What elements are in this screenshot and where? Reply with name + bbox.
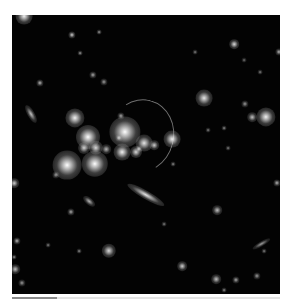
galaxy — [100, 78, 107, 85]
galaxy — [262, 249, 267, 254]
galaxy — [102, 244, 116, 258]
galaxy — [171, 162, 176, 167]
galaxy — [36, 79, 43, 86]
galaxy — [114, 144, 131, 161]
galaxy — [212, 205, 222, 215]
galaxy — [89, 71, 96, 78]
galaxy — [67, 208, 74, 215]
galaxy — [97, 30, 102, 35]
astronomical-image — [12, 15, 280, 294]
galaxy — [222, 126, 227, 131]
galaxy — [82, 194, 97, 208]
galaxy — [162, 222, 167, 227]
galaxy — [222, 288, 227, 293]
galaxy — [275, 48, 280, 55]
galaxy — [193, 50, 198, 55]
galaxy — [256, 107, 275, 126]
galaxy — [258, 70, 263, 75]
galaxy — [211, 274, 221, 284]
galaxy — [13, 237, 20, 244]
galaxy — [46, 243, 51, 248]
galaxy — [273, 179, 280, 186]
galaxy — [82, 151, 108, 177]
galaxy — [12, 255, 16, 260]
galaxy — [16, 15, 33, 24]
galaxy — [253, 272, 260, 279]
galaxy — [77, 249, 82, 254]
galaxy — [196, 90, 213, 107]
galaxy — [206, 128, 211, 133]
galaxy — [65, 108, 84, 127]
galaxy — [68, 31, 75, 38]
galaxy — [226, 146, 231, 151]
galaxy — [101, 144, 111, 154]
galaxy — [164, 131, 181, 148]
galaxy — [247, 112, 257, 122]
galaxy — [125, 181, 166, 210]
galaxy — [241, 100, 248, 107]
galaxy — [23, 104, 39, 125]
galaxy — [18, 279, 25, 286]
galaxy — [12, 178, 19, 188]
galaxy — [78, 51, 83, 56]
galaxy — [242, 58, 247, 63]
galaxy — [232, 276, 239, 283]
progress-bar-fill — [12, 297, 57, 299]
galaxy — [177, 261, 187, 271]
galaxy — [12, 264, 20, 274]
galaxy — [229, 39, 239, 49]
galaxy — [149, 140, 159, 150]
